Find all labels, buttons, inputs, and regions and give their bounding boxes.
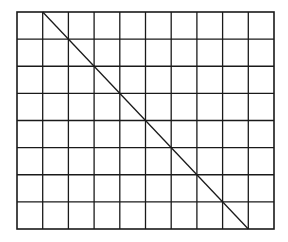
- grid-diagram: [0, 0, 288, 242]
